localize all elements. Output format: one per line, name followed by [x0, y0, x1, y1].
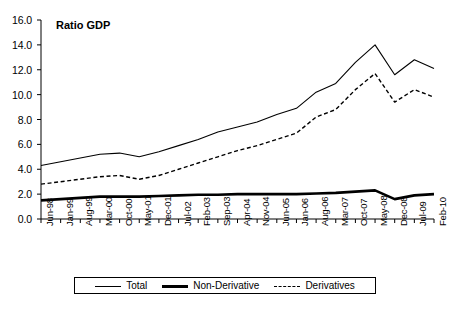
- x-axis-tick-label: Jun-05: [281, 198, 291, 226]
- legend-item: Total: [95, 281, 147, 291]
- dashed-line-swatch: [274, 282, 300, 289]
- x-axis-tick-label: Feb-10: [438, 197, 448, 226]
- y-axis-tick-label: 2.0: [2, 189, 32, 200]
- y-axis-tick-label: 10.0: [2, 90, 32, 101]
- chart-container: Ratio GDP 0.02.04.06.08.010.012.014.016.…: [0, 0, 450, 313]
- series-line-non-derivative: [41, 190, 434, 200]
- series-line-total: [41, 45, 434, 166]
- x-axis-tick-label: Jul-02: [183, 201, 193, 226]
- series-line-derivatives: [41, 73, 434, 184]
- x-axis-tick-label: Mar-07: [340, 197, 350, 226]
- y-axis-tick-label: 14.0: [2, 40, 32, 51]
- x-axis-tick-label: Apr-04: [242, 199, 252, 226]
- thin-line-swatch: [95, 282, 121, 289]
- x-axis-tick-label: Aug-06: [320, 197, 330, 226]
- x-axis-tick-label: Jul-09: [418, 201, 428, 226]
- legend-item: Derivatives: [274, 281, 354, 291]
- chart-legend: TotalNon-DerivativeDerivatives: [74, 277, 376, 294]
- x-axis-tick-label: Dec-08: [399, 197, 409, 226]
- legend-item-label: Derivatives: [305, 281, 354, 291]
- x-axis-tick-label: Dec-01: [163, 197, 173, 226]
- x-axis-tick-label: Feb-03: [202, 197, 212, 226]
- legend-item-label: Total: [126, 281, 147, 291]
- x-axis-tick-label: Sep-03: [222, 197, 232, 226]
- x-axis-tick-label: Jan-99: [65, 198, 75, 226]
- x-axis-tick-label: Jan-06: [300, 198, 310, 226]
- x-axis-tick-label: Aug-99: [84, 197, 94, 226]
- x-axis-tick-label: Oct-00: [124, 199, 134, 226]
- legend-item-label: Non-Derivative: [193, 281, 259, 291]
- thick-line-swatch: [162, 282, 188, 289]
- x-axis-tick-label: Jun-98: [45, 198, 55, 226]
- x-axis-tick-label: May-01: [143, 196, 153, 226]
- y-axis-tick-label: 8.0: [2, 115, 32, 126]
- plot-area: [0, 0, 450, 313]
- y-axis-tick-label: 4.0: [2, 164, 32, 175]
- y-axis-tick-label: 0.0: [2, 214, 32, 225]
- y-axis-tick-label: 16.0: [2, 15, 32, 26]
- x-axis-tick-label: Mar-00: [104, 197, 114, 226]
- x-axis-tick-label: Nov-04: [261, 197, 271, 226]
- y-axis-tick-label: 6.0: [2, 139, 32, 150]
- y-axis-tick-label: 12.0: [2, 65, 32, 76]
- legend-item: Non-Derivative: [162, 281, 259, 291]
- axes-group: [37, 20, 434, 223]
- series-group: [41, 45, 434, 200]
- x-axis-tick-label: May-08: [379, 196, 389, 226]
- x-axis-tick-label: Oct-07: [359, 199, 369, 226]
